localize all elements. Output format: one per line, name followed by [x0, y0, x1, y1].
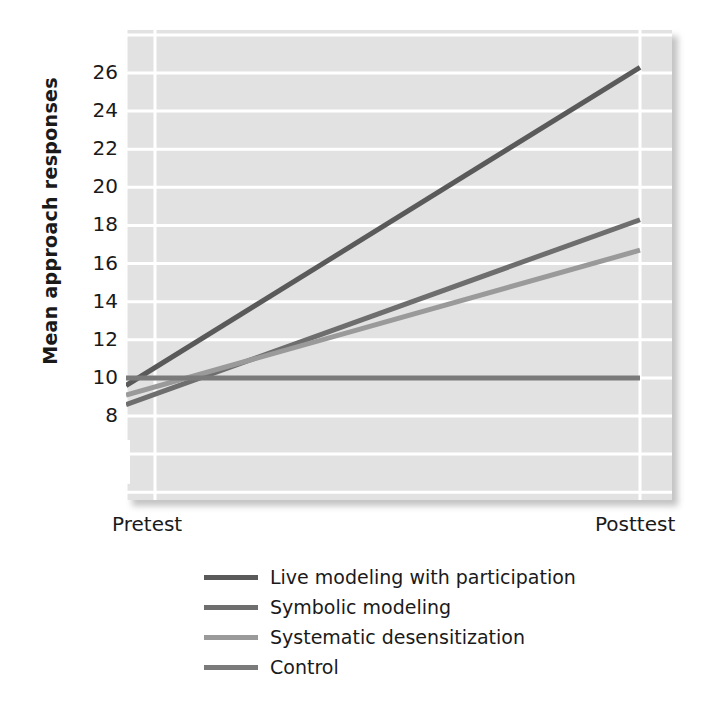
y-axis-tick-label: 14: [72, 291, 118, 311]
legend-item[interactable]: Symbolic modeling: [204, 592, 684, 622]
y-axis-tick-label: 20: [72, 176, 118, 196]
legend-line-swatch-icon: [204, 635, 258, 640]
legend-item[interactable]: Live modeling with participation: [204, 562, 684, 592]
y-axis-tick-labels: 8101214161820222426: [58, 0, 118, 500]
y-axis-tick-label: 10: [72, 367, 118, 387]
chart-legend: Live modeling with participationSymbolic…: [204, 562, 684, 682]
legend-line-swatch-icon: [204, 665, 258, 670]
legend-line-swatch-icon: [204, 575, 258, 580]
legend-item-label: Live modeling with participation: [270, 566, 576, 588]
y-axis-tick-label: 26: [72, 62, 118, 82]
x-axis-label-posttest: Posttest: [595, 512, 675, 536]
legend-item[interactable]: Control: [204, 652, 684, 682]
plot-canvas: [126, 30, 672, 500]
series-line: [126, 250, 640, 395]
legend-line-swatch-icon: [204, 605, 258, 610]
legend-item-label: Systematic desensitization: [270, 626, 525, 648]
x-axis-label-pretest: Pretest: [112, 512, 182, 536]
y-axis-tick-label: 18: [72, 214, 118, 234]
plot-area: [126, 30, 672, 500]
y-axis-tick-label: 24: [72, 100, 118, 120]
legend-item-label: Symbolic modeling: [270, 596, 451, 618]
legend-item-label: Control: [270, 656, 339, 678]
line-chart-figure: Mean approach responses 8101214161820222…: [0, 0, 728, 714]
y-axis-break-icon: [96, 440, 130, 486]
y-axis-tick-label: 22: [72, 138, 118, 158]
y-axis-tick-label: 16: [72, 253, 118, 273]
y-axis-tick-label: 8: [72, 405, 118, 425]
legend-item[interactable]: Systematic desensitization: [204, 622, 684, 652]
y-axis-tick-label: 12: [72, 329, 118, 349]
